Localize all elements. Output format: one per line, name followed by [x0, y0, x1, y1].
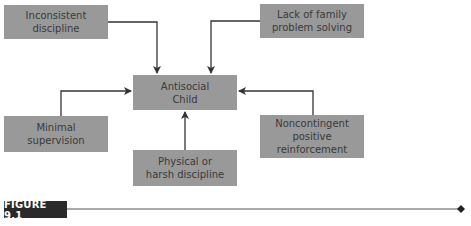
- arrow-inconsistent-discipline: [108, 22, 157, 73]
- factor-noncontingent-positive-reinforcement: Noncontingent positive reinforcement: [260, 115, 364, 158]
- factor-inconsistent-discipline: Inconsistent discipline: [4, 5, 108, 39]
- figure-label: FIGURE 9.1: [4, 201, 67, 218]
- diamond-icon: [457, 205, 465, 213]
- arrow-noncontingent-positive-reinforcement: [239, 91, 313, 115]
- factor-label: Inconsistent discipline: [26, 9, 87, 35]
- factor-lack-of-family-problem-solving: Lack of family problem solving: [260, 4, 364, 38]
- arrow-minimal-supervision: [61, 91, 131, 116]
- factor-minimal-supervision: Minimal supervision: [4, 116, 108, 152]
- center-antisocial-child: Antisocial Child: [133, 75, 237, 110]
- factor-label: Physical or harsh discipline: [146, 155, 224, 181]
- arrow-lack-of-family-problem-solving: [211, 21, 260, 73]
- factor-label: Noncontingent positive reinforcement: [275, 117, 349, 156]
- factor-label: Minimal supervision: [27, 121, 84, 147]
- factor-physical-or-harsh-discipline: Physical or harsh discipline: [133, 150, 237, 186]
- factor-label: Lack of family problem solving: [272, 8, 352, 34]
- center-label: Antisocial Child: [161, 80, 209, 106]
